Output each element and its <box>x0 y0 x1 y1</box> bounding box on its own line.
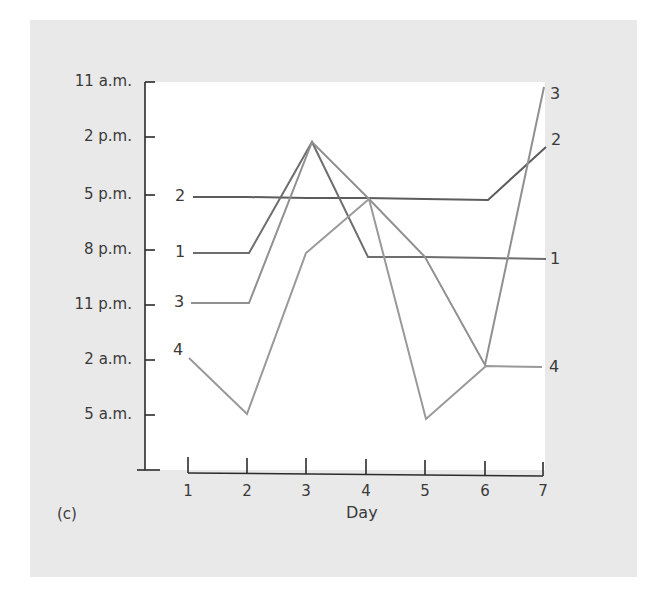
series-2-line <box>193 147 546 200</box>
x-tick-label: 1 <box>178 482 198 500</box>
y-tick-label: 11 a.m. <box>32 72 132 90</box>
axes <box>137 82 543 476</box>
x-tick-label: 3 <box>296 482 316 500</box>
x-tick-label: 4 <box>356 482 376 500</box>
y-tick-label: 2 p.m. <box>32 127 132 145</box>
x-tick-label: 5 <box>415 482 435 500</box>
series-4-label-right: 4 <box>549 357 559 376</box>
y-tick-label: 5 a.m. <box>32 405 132 423</box>
series-3-label-left: 3 <box>174 292 184 311</box>
y-tick-label: 2 a.m. <box>32 350 132 368</box>
series-2-label-left: 2 <box>175 186 185 205</box>
y-tick-label: 5 p.m. <box>32 185 132 203</box>
y-tick-label: 8 p.m. <box>32 240 132 258</box>
series-4-label-left: 4 <box>173 340 183 359</box>
series-3-label-right: 3 <box>550 84 560 103</box>
x-axis-title: Day <box>346 503 378 522</box>
x-tick-label: 7 <box>533 482 553 500</box>
panel-label: (c) <box>57 505 77 523</box>
series-4-line <box>189 199 542 419</box>
series-1-label-left: 1 <box>175 242 185 261</box>
series-2-label-right: 2 <box>551 130 561 149</box>
x-tick-label: 6 <box>475 482 495 500</box>
x-tick-label: 2 <box>237 482 257 500</box>
y-tick-label: 11 p.m. <box>32 295 132 313</box>
series-1-label-right: 1 <box>550 249 560 268</box>
series-3-line <box>191 87 544 365</box>
